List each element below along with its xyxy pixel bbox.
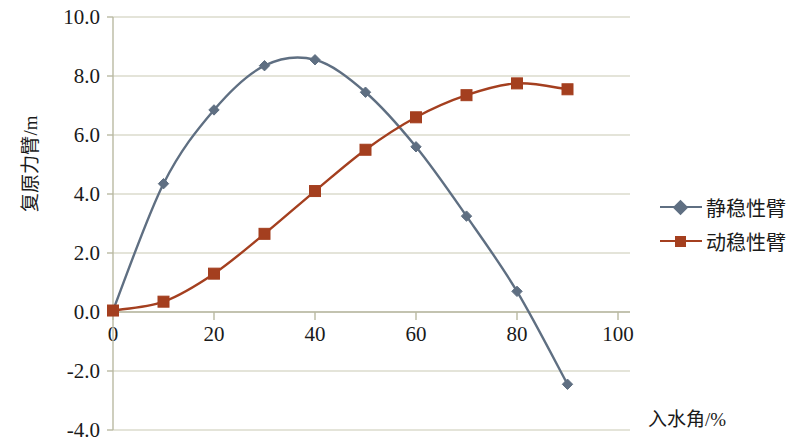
data-point-marker: [562, 379, 572, 389]
chart-legend: 静稳性臂 动稳性臂: [660, 190, 809, 258]
data-point-marker: [512, 286, 522, 296]
data-point-marker: [158, 178, 168, 188]
data-point-marker: [562, 84, 573, 95]
legend-label-static: 静稳性臂: [702, 193, 786, 222]
legend-item-static[interactable]: 静稳性臂: [660, 190, 809, 224]
data-point-marker: [411, 112, 422, 123]
series-static: [108, 55, 573, 390]
data-point-marker: [310, 55, 320, 65]
data-point-marker: [158, 296, 169, 307]
legend-item-dynamic[interactable]: 动稳性臂: [660, 224, 809, 258]
data-point-marker: [259, 60, 269, 70]
data-point-marker: [461, 90, 472, 101]
series-line: [113, 57, 568, 384]
data-point-marker: [512, 78, 523, 89]
legend-label-dynamic: 动稳性臂: [702, 227, 786, 256]
chart-figure: 复原力臂/m 10.08.06.04.02.00.0-2.0-4.0 02040…: [0, 0, 809, 443]
data-point-marker: [360, 144, 371, 155]
series-line: [113, 83, 568, 310]
data-point-marker: [310, 186, 321, 197]
series-dynamic: [108, 78, 574, 316]
data-point-marker: [108, 305, 119, 316]
data-point-marker: [259, 228, 270, 239]
diamond-icon: [660, 200, 702, 214]
data-point-marker: [209, 268, 220, 279]
square-icon: [660, 234, 702, 248]
